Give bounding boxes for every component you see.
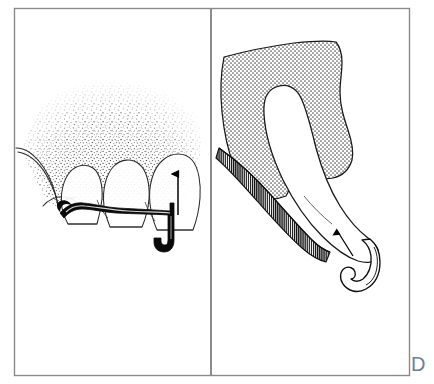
tooth-crown-2 <box>103 160 149 227</box>
tooth-crowns <box>61 154 200 230</box>
figure-panel-label: D <box>411 354 426 374</box>
illustration-canvas <box>0 0 434 384</box>
figure-container: D <box>0 0 434 384</box>
